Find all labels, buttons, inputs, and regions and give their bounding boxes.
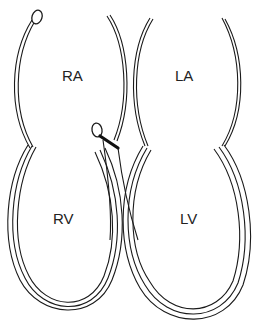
atrial-lead-tip-icon xyxy=(30,9,44,25)
label-la: LA xyxy=(175,67,193,84)
label-lv: LV xyxy=(180,210,197,227)
rv-wall xyxy=(8,145,122,310)
label-ra: RA xyxy=(62,67,83,84)
label-rv: RV xyxy=(53,210,74,227)
atrial-lead xyxy=(30,9,44,25)
heart-chamber-diagram: RA LA RV LV xyxy=(0,0,253,329)
lv-wall xyxy=(123,145,250,319)
